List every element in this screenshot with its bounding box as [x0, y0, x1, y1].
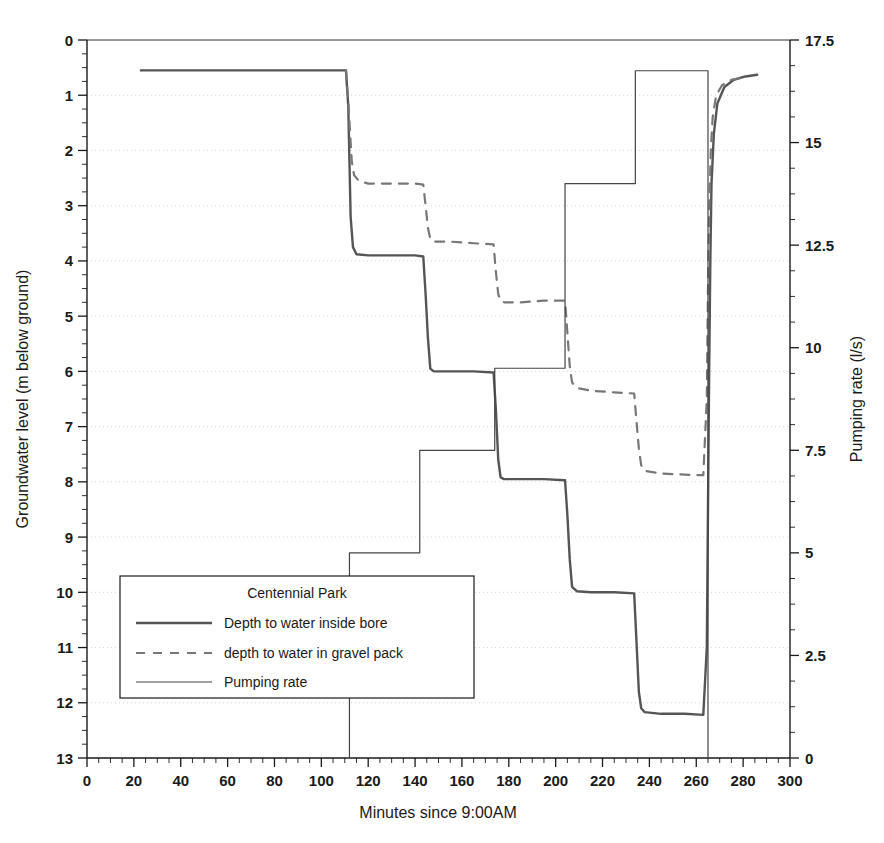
- x-axis-title: Minutes since 9:00AM: [359, 804, 516, 821]
- x-tick-label: 180: [496, 772, 521, 789]
- y-left-tick-label: 13: [56, 750, 73, 767]
- x-tick-label: 140: [403, 772, 428, 789]
- y-left-tick-label: 7: [65, 418, 73, 435]
- y-right-tick-label: 0: [805, 750, 813, 767]
- y-right-tick-label: 17.5: [805, 32, 834, 49]
- y-left-tick-label: 1: [65, 87, 73, 104]
- y-left-tick-label: 0: [65, 32, 73, 49]
- y-left-tick-label: 5: [65, 308, 73, 325]
- y-left-axis-title: Groundwater level (m below ground): [14, 270, 31, 529]
- x-tick-label: 240: [637, 772, 662, 789]
- x-tick-label: 0: [83, 772, 91, 789]
- y-right-tick-label: 12.5: [805, 237, 834, 254]
- y-right-tick-label: 5: [805, 544, 813, 561]
- groundwater-pumping-chart: 0204060801001201401601802002202402602803…: [0, 0, 884, 843]
- x-tick-label: 40: [172, 772, 189, 789]
- x-tick-label: 280: [731, 772, 756, 789]
- chart-legend: Centennial Park Depth to water inside bo…: [120, 576, 474, 698]
- x-tick-label: 160: [449, 772, 474, 789]
- y-left-tick-label: 4: [65, 252, 74, 269]
- y-left-tick-label: 12: [56, 694, 73, 711]
- x-tick-label: 60: [219, 772, 236, 789]
- x-tick-label: 260: [684, 772, 709, 789]
- y-left-tick-label: 3: [65, 197, 73, 214]
- x-tick-label: 220: [590, 772, 615, 789]
- legend-label-gravel-pack: depth to water in gravel pack: [224, 645, 404, 661]
- y-left-tick-label: 11: [57, 639, 73, 656]
- y-left-tick-label: 2: [65, 142, 73, 159]
- y-right-tick-label: 10: [805, 339, 822, 356]
- x-tick-label: 80: [266, 772, 283, 789]
- x-tick-label: 200: [543, 772, 568, 789]
- y-right-axis-title: Pumping rate (l/s): [848, 336, 865, 462]
- x-tick-label: 100: [309, 772, 334, 789]
- y-left-tick-label: 8: [65, 473, 73, 490]
- y-right-tick-label: 15: [805, 134, 822, 151]
- chart-background: [0, 0, 884, 843]
- x-tick-label: 300: [777, 772, 802, 789]
- x-tick-label: 20: [126, 772, 143, 789]
- legend-label-bore: Depth to water inside bore: [224, 615, 388, 631]
- y-left-tick-label: 10: [56, 584, 73, 601]
- x-tick-label: 120: [356, 772, 381, 789]
- legend-label-pumping-rate: Pumping rate: [224, 674, 307, 690]
- y-right-tick-label: 2.5: [805, 647, 826, 664]
- legend-title: Centennial Park: [247, 585, 348, 601]
- chart-figure: 0204060801001201401601802002202402602803…: [0, 0, 884, 843]
- y-right-tick-label: 7.5: [805, 442, 826, 459]
- y-left-tick-label: 9: [65, 529, 73, 546]
- y-left-tick-label: 6: [65, 363, 73, 380]
